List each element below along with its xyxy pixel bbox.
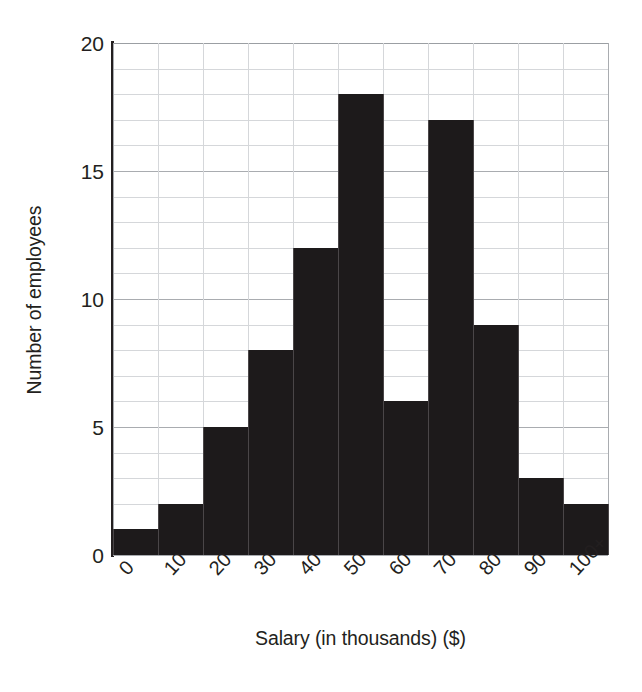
y-tick-label: 0: [52, 545, 104, 566]
histogram-bar: [203, 427, 249, 555]
histogram-bar: [428, 120, 474, 555]
x-tick-label: 0: [115, 557, 137, 579]
y-tick-label: 15: [52, 161, 104, 182]
histogram-bar: [473, 325, 519, 555]
histogram-bar: [518, 478, 564, 555]
y-tick-label: 10: [52, 289, 104, 310]
y-axis-tick-labels: 20 15 10 5 0: [44, 43, 104, 555]
y-tick-label: 5: [52, 417, 104, 438]
histogram-bar: [158, 504, 204, 555]
histogram-bar: [248, 350, 294, 555]
histogram-bar: [383, 401, 429, 555]
bars-layer: [113, 43, 608, 555]
histogram-bar: [113, 529, 159, 555]
x-axis-title: Salary (in thousands) ($): [113, 627, 608, 650]
histogram-bar: [338, 94, 384, 555]
plot-area: [113, 43, 608, 555]
y-tick-label: 20: [52, 33, 104, 54]
histogram-bar: [293, 248, 339, 555]
histogram-figure: Number of employees 20 15 10 5 0 0102030…: [0, 0, 642, 692]
x-axis-tick-labels: 0102030405060708090100+: [113, 557, 608, 627]
gridline-vertical: [608, 43, 609, 555]
